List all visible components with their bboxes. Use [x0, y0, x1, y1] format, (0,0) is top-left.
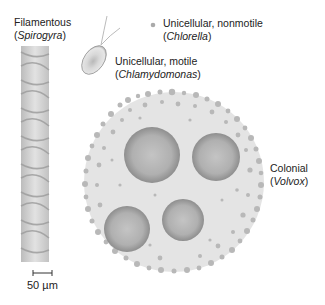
chlamydomonas-label: Unicellular, motile (Chlamydomonas): [115, 55, 201, 80]
spirogyra-filament: [21, 46, 49, 262]
chlamydomonas-form: Unicellular, motile: [115, 55, 201, 68]
chlorella-genus: Chlorella: [167, 30, 208, 42]
chlorella-form: Unicellular, nonmotile: [163, 17, 263, 30]
daughter-colony: [192, 133, 240, 181]
spirogyra-form: Filamentous: [14, 16, 71, 29]
volvox-genus: Volvox: [274, 175, 305, 187]
scale-bar-label: 50 µm: [27, 279, 58, 292]
daughter-colony: [162, 199, 204, 241]
volvox-label: Colonial (Volvox): [270, 162, 308, 187]
scale-bar: [33, 270, 52, 276]
algae-diagram: [0, 0, 325, 305]
volvox-form: Colonial: [270, 162, 308, 175]
daughter-colony: [124, 127, 180, 183]
volvox-colony: [82, 89, 264, 274]
chlorella-cell: [151, 23, 156, 28]
chlamydomonas-cell: [77, 16, 120, 79]
spirogyra-genus: Spirogyra: [18, 29, 63, 41]
spirogyra-label: Filamentous (Spirogyra): [14, 16, 71, 41]
chlorella-label: Unicellular, nonmotile (Chlorella): [163, 17, 263, 42]
daughter-colony: [104, 206, 150, 252]
chlamydomonas-genus: Chlamydomonas: [119, 68, 198, 80]
